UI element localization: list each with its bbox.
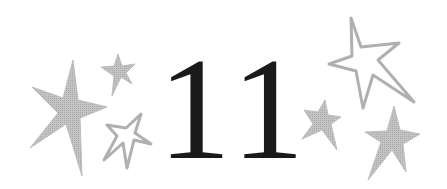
chapter-heading-graphic: 11 [0, 0, 447, 189]
right-large-outline-star-icon [329, 18, 414, 108]
right-bottom-filled-star-icon [365, 106, 420, 180]
chapter-number: 11 [158, 36, 311, 182]
left-outline-star-icon [104, 114, 151, 168]
left-small-filled-star-icon [101, 54, 135, 96]
left-large-filled-star-icon [30, 60, 107, 176]
